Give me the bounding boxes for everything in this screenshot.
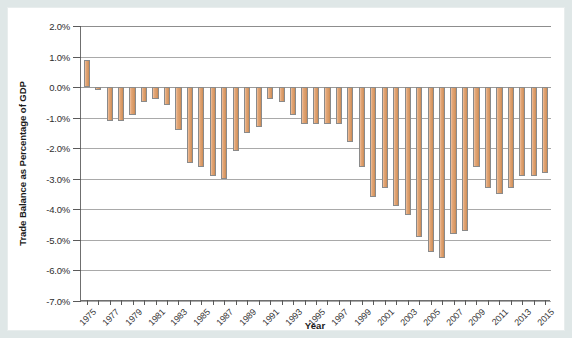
x-tick-mark: [121, 300, 122, 305]
x-tick-mark: [431, 300, 432, 305]
x-tick-mark: [282, 300, 283, 305]
x-tick-mark: [499, 300, 500, 305]
x-tick-mark: [87, 300, 88, 305]
x-tick-mark: [362, 300, 363, 305]
bar: [428, 87, 434, 252]
x-tick-mark: [327, 300, 328, 305]
bar: [164, 87, 170, 105]
x-tick-mark: [534, 300, 535, 305]
bar: [221, 87, 227, 179]
y-tick-mark: [73, 209, 81, 210]
bar: [84, 60, 90, 88]
chart-figure: Trade Balance as Percentage of GDP 2.0%1…: [8, 8, 564, 330]
x-tick-mark: [201, 300, 202, 305]
y-tick-label: -6.0%: [46, 265, 70, 276]
bar: [496, 87, 502, 194]
bar: [450, 87, 456, 234]
y-tick-mark: [73, 87, 81, 88]
y-tick-label: -5.0%: [46, 234, 70, 245]
y-tick-mark: [73, 270, 81, 271]
bar: [508, 87, 514, 188]
x-tick-mark: [144, 300, 145, 305]
x-tick-mark: [133, 300, 134, 305]
x-tick-mark: [259, 300, 260, 305]
y-tick-label: 0.0%: [49, 82, 70, 93]
x-tick-mark: [316, 300, 317, 305]
bar-series: [81, 26, 550, 300]
x-tick-mark: [511, 300, 512, 305]
x-tick-mark: [156, 300, 157, 305]
bar: [542, 87, 548, 173]
y-tick-mark: [73, 148, 81, 149]
bar: [95, 87, 101, 90]
x-tick-mark: [419, 300, 420, 305]
x-tick-mark: [385, 300, 386, 305]
x-tick-mark: [396, 300, 397, 305]
y-tick-label: -1.0%: [46, 112, 70, 123]
x-tick-mark: [408, 300, 409, 305]
bar: [256, 87, 262, 127]
y-axis-title: Trade Balance as Percentage of GDP: [14, 26, 30, 301]
x-tick-mark: [293, 300, 294, 305]
x-tick-mark: [465, 300, 466, 305]
bar: [301, 87, 307, 124]
x-tick-mark: [545, 300, 546, 305]
bar: [129, 87, 135, 115]
bar: [531, 87, 537, 176]
plot-area: 2.0%1.0%0.0%-1.0%-2.0%-3.0%-4.0%-5.0%-6.…: [80, 26, 550, 301]
y-tick-mark: [73, 179, 81, 180]
x-tick-mark: [476, 300, 477, 305]
bar: [152, 87, 158, 99]
y-tick-label: -7.0%: [46, 296, 70, 307]
y-tick-mark: [73, 301, 81, 302]
x-tick-mark: [98, 300, 99, 305]
x-tick-mark: [190, 300, 191, 305]
x-tick-mark: [488, 300, 489, 305]
bar: [439, 87, 445, 258]
x-tick-mark: [350, 300, 351, 305]
y-tick-mark: [73, 26, 81, 27]
bar: [473, 87, 479, 166]
x-tick-mark: [339, 300, 340, 305]
bar: [187, 87, 193, 163]
x-tick-mark: [270, 300, 271, 305]
x-tick-mark: [178, 300, 179, 305]
y-tick-label: -4.0%: [46, 204, 70, 215]
bar: [405, 87, 411, 215]
x-tick-mark: [224, 300, 225, 305]
bar: [393, 87, 399, 206]
x-tick-mark: [454, 300, 455, 305]
x-axis-title: Year: [80, 320, 550, 331]
bar: [198, 87, 204, 166]
x-tick-mark: [236, 300, 237, 305]
y-tick-label: -2.0%: [46, 143, 70, 154]
bar: [233, 87, 239, 151]
x-tick-mark: [167, 300, 168, 305]
bar: [485, 87, 491, 188]
bar: [107, 87, 113, 121]
bar: [279, 87, 285, 102]
bar: [462, 87, 468, 231]
x-tick-mark: [522, 300, 523, 305]
y-tick-label: -3.0%: [46, 173, 70, 184]
y-tick-label: 2.0%: [49, 21, 70, 32]
bar: [370, 87, 376, 197]
y-tick-mark: [73, 118, 81, 119]
bar: [175, 87, 181, 130]
bar: [118, 87, 124, 121]
bar: [324, 87, 330, 124]
x-tick-mark: [213, 300, 214, 305]
bar: [359, 87, 365, 166]
bar: [347, 87, 353, 142]
y-tick-mark: [73, 57, 81, 58]
bar: [382, 87, 388, 188]
y-tick-label: 1.0%: [49, 51, 70, 62]
x-tick-mark: [110, 300, 111, 305]
x-tick-mark: [247, 300, 248, 305]
bar: [313, 87, 319, 124]
bar: [336, 87, 342, 124]
bar: [244, 87, 250, 133]
bar: [416, 87, 422, 237]
x-tick-mark: [305, 300, 306, 305]
bar: [267, 87, 273, 99]
